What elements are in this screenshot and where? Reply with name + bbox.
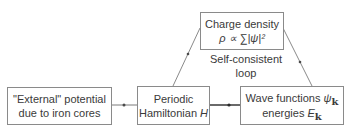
periodic-hamiltonian-node: Periodic Hamiltonian H [137,86,210,125]
external-potential-line1: "External" potential [13,92,106,106]
external-potential-line2: due to iron cores [19,106,101,120]
hamiltonian-line1: Periodic [154,92,194,106]
arrow-head-icon [123,104,126,107]
external-potential-node: "External" potential due to iron cores [7,87,112,125]
charge-density-formula: ρ ∝ ∑|ψ|² [219,31,265,45]
hamiltonian-line2: Hamiltonian H [139,106,208,120]
wave-functions-line1: Wave functions ψk [246,91,339,106]
arrow-head-icon [227,103,230,106]
energies-line2: energies Ek [262,106,322,121]
edge-hamiltonian-to-charge [173,28,200,86]
wave-functions-node: Wave functions ψk energies Ek [240,86,344,125]
arrow-head-icon [187,53,190,56]
self-consistent-loop-label: Self-consistent loop [206,52,286,80]
charge-density-node: Charge density ρ ∝ ∑|ψ|² [200,12,284,50]
arrow-head-icon [299,61,302,64]
edge-charge-to-wave [283,28,312,86]
charge-density-title: Charge density [205,17,279,31]
